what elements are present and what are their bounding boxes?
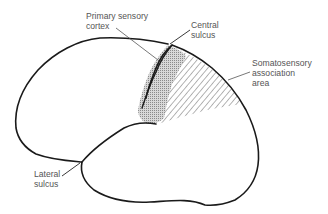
leader-primary-sensory-cortex bbox=[116, 28, 158, 60]
leader-somatosensory-association bbox=[228, 72, 250, 80]
label-lateral-sulcus: Lateral sulcus bbox=[34, 169, 63, 189]
lateral-sulcus-line bbox=[82, 123, 156, 162]
leader-central-sulcus bbox=[170, 30, 190, 44]
label-primary-sensory-cortex: Primary sensory cortex bbox=[86, 11, 150, 31]
brain-diagram: Primary sensory cortex Central sulcus So… bbox=[0, 0, 328, 214]
label-somatosensory-association-area: Somatosensory association area bbox=[252, 58, 314, 88]
leader-lateral-sulcus bbox=[62, 163, 80, 176]
label-central-sulcus: Central sulcus bbox=[191, 20, 221, 40]
